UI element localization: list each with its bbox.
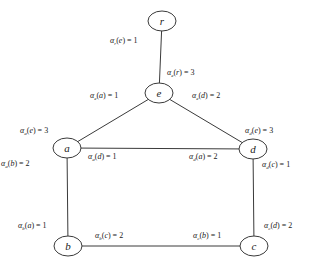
edges-group [67,21,254,246]
weight-label-r-e: αr(e) = 1 [110,36,138,46]
weight-label-b-c: αb(c) = 2 [95,231,123,241]
edge-e-a [67,93,159,148]
label-value: 2 [288,221,292,230]
label-value: 2 [26,159,30,168]
label-value: 3 [44,126,48,135]
node-e-label: e [157,87,162,99]
label-value: 1 [114,91,118,100]
node-c-label: c [252,240,257,252]
node-r-label: r [160,15,165,27]
graph-diagram: readbc αr(e) = 1αe(r) = 3αe(a) = 1αe(d) … [0,0,321,272]
node-a-label: a [64,142,70,154]
node-d-label: d [250,143,256,155]
weight-label-d-e: αd(e) = 3 [245,126,273,136]
weight-label-a-e: αa(e) = 3 [20,126,48,136]
weight-label-e-a: αe(a) = 1 [90,91,118,101]
node-a: a [53,138,81,158]
edge-r-e [159,21,162,93]
edge-labels-group: αr(e) = 1αe(r) = 3αe(a) = 1αe(d) = 2αa(e… [1,36,292,241]
weight-label-e-d: αe(d) = 2 [192,91,220,101]
weight-label-b-a: αb(a) = 1 [18,221,47,231]
node-b-label: b [65,240,71,252]
edge-a-b [67,148,68,246]
weight-label-c-d: αc(d) = 2 [264,221,292,231]
weight-label-a-b: αa(b) = 2 [1,159,30,169]
label-value: 1 [43,221,47,230]
weight-label-d-c: αd(c) = 1 [262,160,290,170]
node-b: b [54,236,82,256]
node-c: c [240,236,268,256]
weight-label-d-a: αd(a) = 2 [189,152,218,162]
label-value: 3 [269,126,273,135]
label-value: 3 [190,68,194,77]
weight-label-e-r: αe(r) = 3 [167,68,194,78]
edge-e-d [159,93,253,149]
edge-a-d [67,148,253,149]
node-e: e [145,83,173,103]
label-value: 2 [214,152,218,161]
weight-label-a-d: αa(d) = 1 [88,152,117,162]
label-value: 2 [119,231,123,240]
node-d: d [239,139,267,159]
label-value: 1 [286,160,290,169]
label-value: 1 [134,36,138,45]
label-value: 1 [113,152,117,161]
edge-d-c [253,149,254,246]
label-value: 2 [216,91,220,100]
label-value: 1 [217,231,221,240]
weight-label-c-b: αc(b) = 1 [193,231,221,241]
node-r: r [148,11,176,31]
